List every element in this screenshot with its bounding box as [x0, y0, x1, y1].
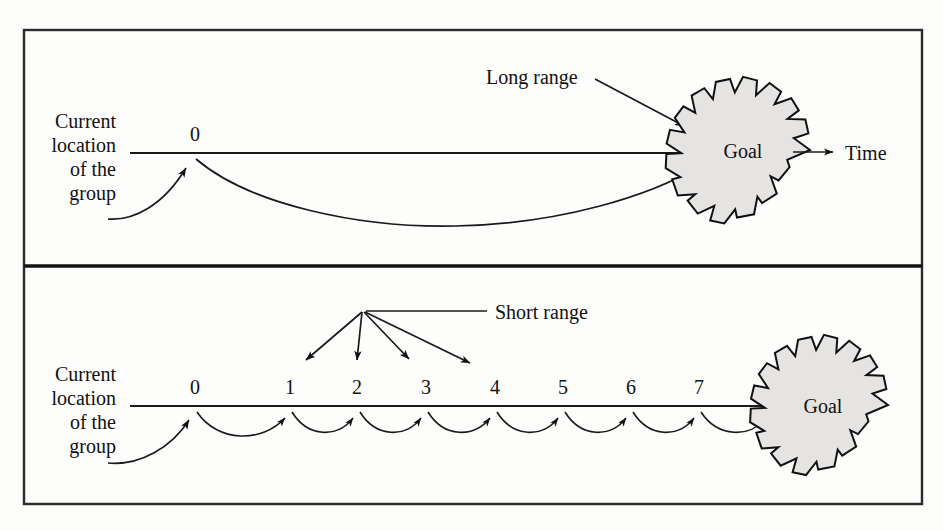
short-range-entry-arrow [108, 420, 189, 463]
short-range-tick-label-3: 3 [421, 376, 431, 398]
figure-container: Current location of the group 0 Long ran… [0, 0, 943, 531]
short-range-tick-label-6: 6 [626, 376, 636, 398]
short-range-callout-label: Short range [495, 301, 588, 324]
short-range-hop-arc-5-6 [565, 412, 626, 432]
diagram-canvas: Current location of the group 0 Long ran… [0, 0, 943, 531]
short-range-hop-arc-1-2 [292, 412, 353, 432]
panel-long-range: Current location of the group 0 Long ran… [52, 66, 887, 226]
long-range-side-label-line-2: location [52, 134, 116, 156]
short-range-side-label-line-3: of the [70, 411, 116, 433]
short-range-hop-arc-2-3 [360, 412, 421, 432]
short-range-callout-arrow-to-4 [365, 312, 470, 363]
short-range-tick-label-4: 4 [490, 376, 500, 398]
short-range-goal-label: Goal [804, 395, 843, 417]
long-range-tick-label-0: 0 [190, 123, 200, 145]
short-range-side-label-line-4: group [69, 435, 116, 458]
short-range-hop-arc-0-1 [197, 412, 285, 436]
short-range-callout-arrow-to-3 [364, 312, 409, 359]
long-range-goal-label: Goal [724, 140, 763, 162]
long-range-callout-label: Long range [486, 66, 578, 89]
long-range-entry-arrow [108, 168, 186, 219]
long-range-side-label-line-1: Current [55, 110, 117, 132]
short-range-hop-arc-4-5 [497, 412, 558, 432]
short-range-side-label-line-2: location [52, 387, 116, 409]
short-range-tick-label-0: 0 [190, 376, 200, 398]
short-range-tick-label-2: 2 [352, 376, 362, 398]
short-range-tick-label-5: 5 [558, 376, 568, 398]
panel-short-range: Current location of the group 0 1 2 3 4 … [52, 301, 888, 475]
short-range-hop-arc-6-7 [633, 412, 694, 432]
short-range-callout-arrow-to-1 [306, 312, 362, 360]
short-range-tick-label-7: 7 [694, 376, 704, 398]
long-range-side-label-line-3: of the [70, 158, 116, 180]
short-range-side-label-line-1: Current [55, 363, 117, 385]
long-range-side-label-line-4: group [69, 182, 116, 205]
long-range-trajectory-arc [196, 159, 700, 226]
long-range-callout-arrow [595, 79, 684, 126]
short-range-callout-arrow-to-2 [357, 312, 362, 360]
short-range-tick-label-1: 1 [285, 376, 295, 398]
long-range-axis-label: Time [845, 142, 887, 164]
short-range-hop-arc-3-4 [428, 412, 490, 432]
